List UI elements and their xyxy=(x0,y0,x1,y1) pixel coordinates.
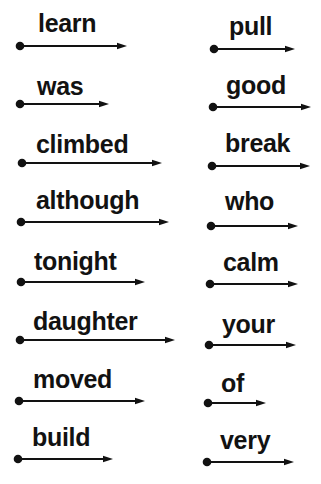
arrowhead-icon xyxy=(284,459,294,465)
arrow-line xyxy=(0,0,321,484)
start-dot xyxy=(203,458,212,467)
